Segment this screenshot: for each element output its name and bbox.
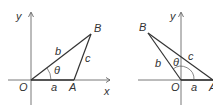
angle-theta-label: θ [54,64,60,76]
diagram-canvas: y x O A B a b c θ y O B a b c θ A [0,0,213,112]
x-axis-label: x [103,85,110,97]
side-b-label: b [155,57,161,69]
side-a-label: a [191,81,197,93]
origin-label: O [171,81,180,93]
point-a-label: A [68,81,76,93]
point-a-label: A [208,81,213,93]
side-a-label: a [51,81,57,93]
y-axis-label: y [169,10,177,22]
side-c-label: c [188,50,194,62]
figure-obtuse-triangle: y O B a b c θ A [138,10,213,105]
point-b-label: B [94,22,101,34]
origin-label: O [19,81,28,93]
angle-theta-label: θ [173,56,179,68]
side-b-label: b [55,45,61,57]
angle-arc [47,68,51,80]
figure-acute-triangle: y x O A B a b c θ [8,10,110,105]
point-b-label: B [139,21,146,33]
side-c-label: c [85,52,91,64]
y-axis-label: y [15,10,23,22]
